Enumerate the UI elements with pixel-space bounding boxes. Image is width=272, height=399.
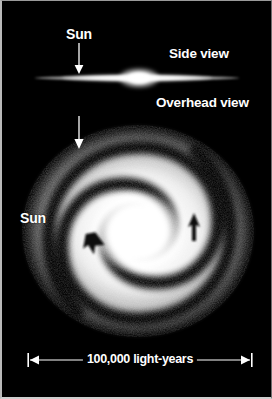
- side-view-title: Side view: [169, 47, 229, 61]
- overhead-view-title: Overhead view: [156, 96, 249, 110]
- overhead-view-galaxy: [16, 119, 260, 341]
- sun-pointer-arrow-side-view: [71, 43, 87, 75]
- sun-label-overhead-view: Sun: [20, 211, 46, 225]
- sun-label-side-view: Sun: [66, 27, 92, 41]
- scale-bar-right-arrowhead: [241, 356, 250, 365]
- spiral-galaxy-graphic: [16, 119, 260, 341]
- scale-bar: 100,000 light-years: [27, 351, 253, 369]
- galaxy-diagram-figure: Sun Side view Overhead view: [0, 0, 272, 399]
- galaxy-disk-layer: [22, 125, 254, 337]
- sun-pointer-arrow-overhead-view: [71, 116, 87, 150]
- side-galactic-core: [128, 73, 150, 84]
- side-view-galaxy-disk: [2, 57, 272, 99]
- scale-bar-left-arrowhead: [30, 356, 39, 365]
- scale-bar-caption: 100,000 light-years: [83, 352, 197, 367]
